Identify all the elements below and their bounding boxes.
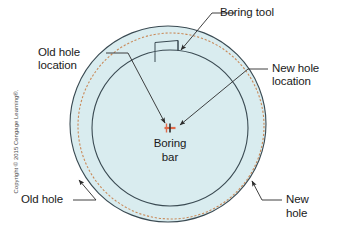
- figure-canvas: Boring tool Old hole location New hole l…: [0, 0, 337, 237]
- label-new-hole-location-line1: New hole: [272, 62, 319, 76]
- leader-new-hole-diagonal: [252, 181, 262, 200]
- label-boring-tool: Boring tool: [220, 6, 274, 20]
- label-new-hole-line1: New: [286, 193, 309, 207]
- copyright-notice: Copyright © 2015 Cengage Learning®.: [13, 98, 20, 194]
- label-boring-bar-line1: Boring: [140, 137, 200, 151]
- label-old-hole-location-line1: Old hole: [38, 46, 80, 60]
- label-new-hole-line2: hole: [286, 207, 307, 221]
- label-old-hole-location-line2: location: [38, 59, 77, 73]
- label-boring-bar-line2: bar: [140, 151, 200, 165]
- label-old-hole: Old hole: [21, 193, 63, 207]
- label-new-hole-location-line2: location: [272, 75, 311, 89]
